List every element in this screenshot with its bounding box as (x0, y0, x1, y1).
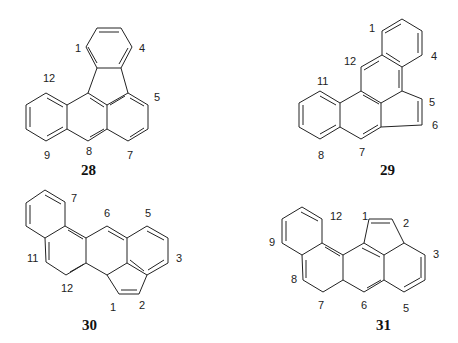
compound-number-29: 29 (380, 163, 395, 178)
atom-label: 6 (432, 120, 438, 131)
atom-label: 12 (43, 73, 55, 84)
atom-label: 5 (403, 303, 409, 314)
atom-label: 4 (431, 51, 437, 62)
atom-label: 3 (433, 249, 439, 260)
atom-label: 11 (27, 253, 38, 264)
compound-28-structure (26, 28, 148, 141)
atom-label: 7 (71, 193, 77, 204)
atom-label: 8 (318, 150, 324, 161)
atom-label: 12 (61, 283, 73, 294)
atom-label: 12 (344, 56, 356, 67)
atom-label: 4 (139, 43, 145, 54)
atom-label: 9 (44, 150, 50, 161)
compound-30-structure (26, 190, 168, 294)
atom-label: 9 (269, 237, 275, 248)
atom-label: 7 (359, 147, 365, 158)
atom-label: 5 (154, 92, 160, 103)
compound-number-31: 31 (376, 318, 391, 333)
atom-label: 2 (139, 300, 145, 311)
atom-label: 7 (127, 150, 133, 161)
atom-label: 12 (330, 211, 342, 222)
atom-label: 5 (145, 208, 151, 219)
atom-label: 5 (429, 97, 435, 108)
atom-label: 1 (110, 302, 116, 313)
atom-label: 6 (361, 300, 367, 311)
atom-label: 1 (75, 43, 81, 54)
atom-label: 11 (317, 76, 328, 87)
atom-label: 1 (362, 211, 368, 222)
atom-label: 8 (291, 274, 297, 285)
compound-number-30: 30 (82, 318, 97, 333)
atom-label: 2 (403, 218, 409, 229)
atom-label: 8 (86, 146, 92, 157)
atom-label: 1 (369, 23, 375, 34)
atom-label: 6 (104, 208, 110, 219)
atom-label: 7 (318, 300, 324, 311)
atom-label: 3 (176, 253, 182, 264)
compound-number-28: 28 (81, 163, 96, 178)
